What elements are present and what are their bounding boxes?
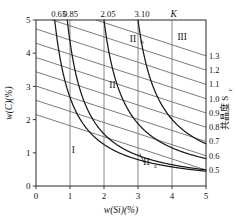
right-axis-tick-label-0.8: 0.8 <box>209 123 219 132</box>
region-label-iii: III <box>177 32 187 42</box>
x-tick-label-0: 0 <box>34 191 39 201</box>
right-axis-tick-label-0.5: 0.5 <box>209 166 219 175</box>
y-axis-label: w(C)(%) <box>4 86 15 119</box>
x-tick-label-5: 5 <box>204 191 209 201</box>
top-axis-label: K <box>170 9 178 19</box>
region-label-iib-subscript: b <box>141 39 144 45</box>
fe-c-si-diagram: 012345w(Si)(%)012345w(C)(%)0.650.852.053… <box>0 0 237 220</box>
region-label-i: I <box>72 145 75 155</box>
right-axis-label: 共晶度 S <box>219 96 230 130</box>
right-axis-tick-label-1.1: 1.1 <box>209 80 219 89</box>
y-tick-label-0: 0 <box>26 181 31 191</box>
x-tick-label-3: 3 <box>136 191 141 201</box>
right-axis-tick-label-0.9: 0.9 <box>209 109 219 118</box>
right-axis-tick-label-1.0: 1.0 <box>209 95 219 104</box>
y-tick-label-2: 2 <box>26 115 31 125</box>
region-label-iia-subscript: a <box>154 163 157 169</box>
region-label-iib: II <box>130 34 136 44</box>
x-axis-label: w(Si)(%) <box>104 205 138 216</box>
chart-container: 012345w(Si)(%)012345w(C)(%)0.650.852.053… <box>0 0 237 220</box>
top-axis-tick-label-0.85: 0.85 <box>63 9 78 19</box>
top-axis-tick-label-2.05: 2.05 <box>100 9 115 19</box>
y-tick-label-3: 3 <box>26 82 31 92</box>
y-tick-label-4: 4 <box>26 48 31 58</box>
right-axis-tick-label-1.3: 1.3 <box>209 52 219 61</box>
x-tick-label-1: 1 <box>68 191 73 201</box>
right-axis-label-subscript: c <box>227 88 233 91</box>
right-axis-tick-label-1.2: 1.2 <box>209 66 219 75</box>
right-axis-tick-label-0.7: 0.7 <box>209 137 219 146</box>
right-axis-tick-label-0.6: 0.6 <box>209 152 219 161</box>
top-axis-tick-label-3.10: 3.10 <box>134 9 149 19</box>
y-tick-label-1: 1 <box>26 148 31 158</box>
y-tick-label-5: 5 <box>26 15 31 25</box>
x-tick-label-4: 4 <box>170 191 175 201</box>
x-tick-label-2: 2 <box>102 191 107 201</box>
region-label-ii: II <box>109 80 115 90</box>
